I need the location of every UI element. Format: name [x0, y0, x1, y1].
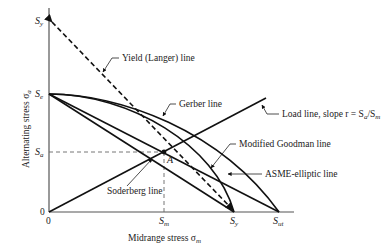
asme-elliptic-label: ASME-elliptic line — [265, 169, 338, 179]
load-line-label: Load line, slope r = Sa/Sm — [282, 109, 380, 121]
x-tick-sy: Sy — [230, 215, 239, 228]
modified-goodman-label: Modified Goodman line — [239, 139, 331, 149]
gerber-leader — [163, 104, 176, 116]
soderberg-label: Soderberg line — [107, 186, 163, 196]
gerber-line-label: Gerber line — [179, 99, 222, 109]
y-axis-title: Alternating stress σa — [21, 90, 33, 168]
yield-line-label: Yield (Langer) line — [122, 53, 195, 64]
load-leader — [262, 105, 279, 114]
x-origin-label: 0 — [46, 216, 51, 226]
yield-leader — [103, 58, 119, 72]
x-tick-sut: Sut — [273, 215, 285, 228]
x-axis-title: Midrange stress σm — [128, 233, 201, 245]
point-a — [162, 150, 167, 155]
y-origin-label: 0 — [40, 207, 45, 217]
soderberg-leader — [127, 159, 152, 186]
fatigue-diagram: A Sy Se Sa 0 0 Sm Sy Sut Midrange stress… — [0, 0, 390, 249]
point-a-label: A — [166, 154, 174, 165]
axes — [49, 8, 294, 212]
y-tick-sy: Sy — [35, 15, 44, 28]
x-tick-sm: Sm — [159, 215, 169, 228]
y-tick-sa: Sa — [35, 146, 44, 159]
y-tick-se: Se — [35, 88, 43, 101]
